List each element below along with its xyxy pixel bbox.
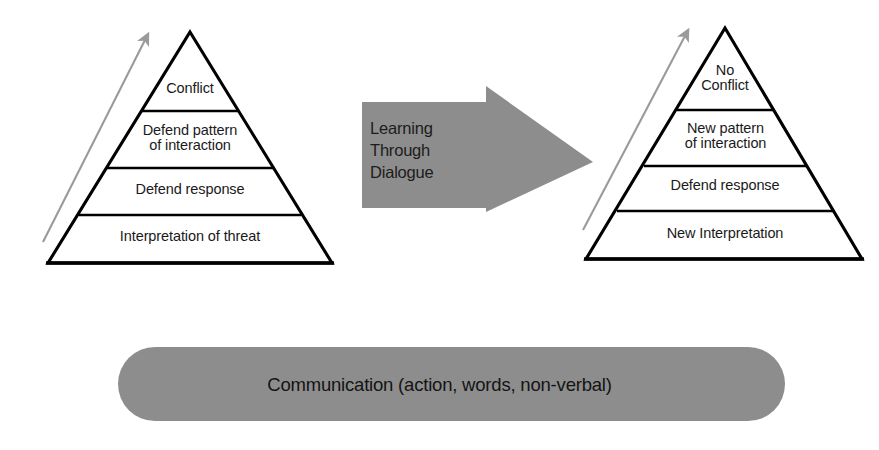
pyramid-level-interpretation-of-threat: Interpretation of threat [58, 229, 322, 244]
pyramid-level-defend-response-right: Defend response [614, 178, 836, 193]
learning-through-dialogue-label: Learning Through Dialogue [370, 118, 498, 184]
pyramid-level-new-interpretation: New Interpretation [596, 226, 854, 241]
pyramid-level-defend-pattern: Defend pattern of interaction [105, 123, 275, 154]
communication-bar-label: Communication (action, words, non-verbal… [0, 374, 879, 396]
pyramid-level-no-conflict: No Conflict [662, 63, 788, 94]
pyramid-level-conflict: Conflict [120, 81, 260, 96]
diagram-canvas: Conflict Defend pattern of interaction D… [0, 0, 879, 450]
pyramid-level-defend-response: Defend response [80, 182, 300, 197]
pyramid-level-new-pattern: New pattern of interaction [641, 121, 810, 152]
